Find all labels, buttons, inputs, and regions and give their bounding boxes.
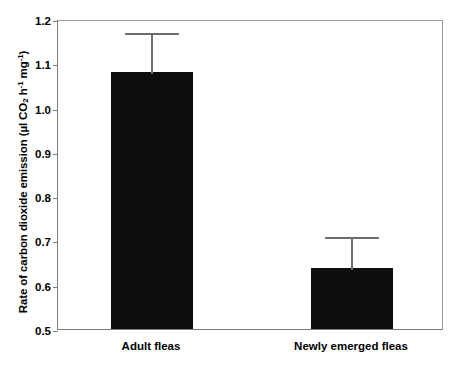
y-axis-title: Rate of carbon dioxide emission (µl CO2 … (16, 17, 30, 347)
y-tick-mark (53, 287, 58, 288)
y-tick-label: 0.9 (35, 148, 51, 160)
y-tick-mark (53, 21, 58, 22)
y-tick-mark (53, 110, 58, 111)
y-tick-label: 1.1 (35, 59, 51, 71)
y-axis-title-sup-1: -1 (16, 82, 25, 89)
y-axis-title-mid-2: mg (17, 61, 29, 81)
y-tick-label: 0.5 (35, 325, 51, 337)
x-axis-label-0: Adult fleas (122, 340, 181, 352)
y-tick-label: 0.7 (35, 236, 51, 248)
y-tick-mark (53, 65, 58, 66)
bar-0 (111, 72, 193, 329)
y-tick-label: 1.2 (35, 15, 51, 27)
y-axis-title-sub: 2 (21, 98, 30, 102)
y-tick-mark (53, 242, 58, 243)
y-tick-label: 1.0 (35, 104, 51, 116)
figure-canvas: Rate of carbon dioxide emission (µl CO2 … (0, 0, 452, 365)
y-axis-title-suffix: ) (17, 51, 29, 55)
y-tick-mark (53, 331, 58, 332)
y-tick-label: 0.6 (35, 281, 51, 293)
y-axis-title-mid: h (17, 88, 29, 98)
plot-area: 1.21.11.00.90.80.70.60.5 (57, 20, 443, 330)
y-tick-mark (53, 154, 58, 155)
error-bar-line-0 (151, 33, 152, 74)
y-axis-title-sup-2: -1 (16, 54, 25, 61)
error-bar-cap-0 (125, 33, 179, 35)
y-tick-label: 0.8 (35, 192, 51, 204)
y-tick-mark (53, 198, 58, 199)
error-bar-cap-1 (325, 237, 379, 239)
error-bar-line-1 (351, 237, 352, 270)
bar-1 (311, 268, 393, 329)
y-axis-title-prefix: Rate of carbon dioxide emission (µl CO (17, 103, 29, 314)
x-axis-label-1: Newly emerged fleas (294, 340, 408, 352)
